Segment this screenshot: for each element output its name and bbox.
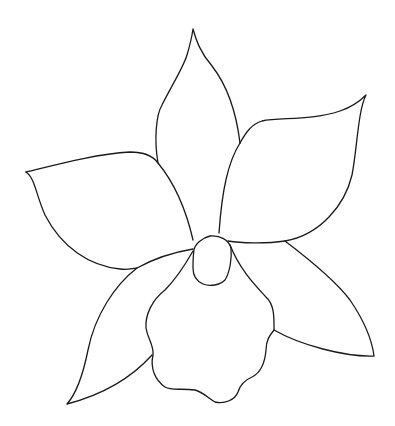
column (193, 236, 231, 286)
top-sepal (156, 29, 240, 163)
lower-right-sepal (274, 241, 374, 356)
lip (146, 245, 274, 403)
orchid-drawing (0, 0, 395, 426)
right-petal (228, 95, 366, 243)
left-petal-lower-edge (26, 172, 137, 269)
left-petal (26, 152, 193, 240)
lower-left-sepal (67, 249, 193, 404)
right-petal-lower-edge (219, 143, 240, 233)
